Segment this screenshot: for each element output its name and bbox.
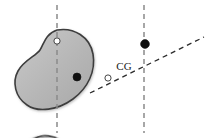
mechanics-diagram-canvas: CG	[0, 0, 208, 138]
figure-container: CG	[0, 0, 208, 138]
filled-point-right	[141, 40, 150, 49]
cg-label: CG	[116, 60, 132, 72]
filled-point-left	[73, 73, 81, 81]
left-panel	[15, 5, 94, 133]
open-point-right	[105, 75, 111, 81]
bean-shape-right	[15, 134, 102, 138]
open-point-left	[54, 38, 60, 44]
